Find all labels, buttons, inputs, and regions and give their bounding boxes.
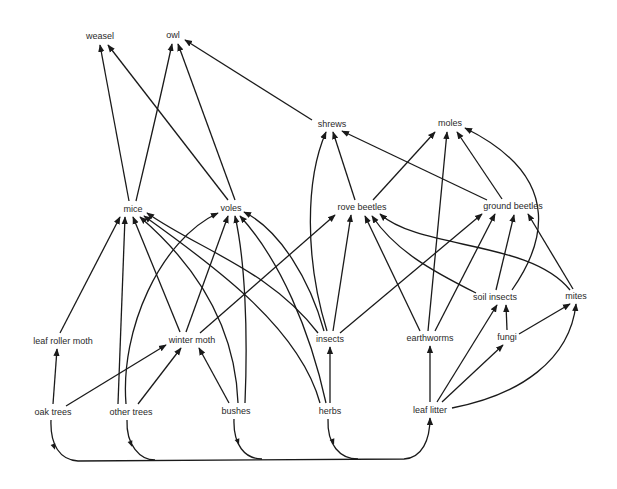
- edge-bushes-to-mice: [140, 217, 238, 403]
- edge-oak-trees-to-leaf-litter: [51, 418, 430, 461]
- edge-rove-beetles-to-shrews: [333, 132, 355, 200]
- node-leaf-roller-moth: leaf roller moth: [33, 337, 93, 346]
- node-bushes: bushes: [221, 407, 250, 416]
- edge-ground-beetles-to-shrews: [342, 131, 487, 200]
- edge-fungi-to-soil-insects: [506, 305, 507, 330]
- edge-mites-to-ground-beetles: [528, 214, 573, 289]
- edge-earthworms-to-ground-beetles: [435, 214, 495, 331]
- edge-insects-to-shrews: [310, 132, 327, 331]
- node-insects: insects: [316, 335, 344, 344]
- node-winter-moth: winter moth: [169, 336, 216, 345]
- edge-insects-to-ground-beetles: [340, 214, 482, 333]
- edge-shrews-to-owl: [185, 40, 312, 120]
- node-soil-insects: soil insects: [473, 293, 517, 302]
- edge-other-trees-to-mice: [118, 217, 125, 404]
- node-leaf-litter: leaf litter: [413, 406, 447, 415]
- edge-voles-to-weasel: [108, 45, 228, 200]
- node-fungi: fungi: [497, 333, 517, 342]
- node-herbs: herbs: [319, 407, 342, 416]
- edge-oak-trees-to-leaf-roller-moth: [53, 349, 57, 404]
- edge-fungi-to-mites: [519, 304, 570, 334]
- edge-insects-to-rove-beetles: [333, 215, 351, 331]
- edge-other-trees-to-leaf-litter: [127, 420, 155, 460]
- edge-mice-to-weasel: [100, 45, 129, 201]
- node-owl: owl: [166, 31, 180, 40]
- node-weasel: weasel: [86, 32, 114, 41]
- edge-bushes-to-voles: [235, 216, 246, 403]
- node-moles: moles: [438, 119, 462, 128]
- node-ground-beetles: ground beetles: [483, 202, 543, 211]
- edge-oak-trees-to-winter-moth: [66, 345, 166, 406]
- edge-mice-to-owl: [136, 44, 172, 201]
- node-voles: voles: [220, 204, 241, 213]
- edge-rove-beetles-to-moles: [373, 132, 435, 200]
- node-other-trees: other trees: [109, 408, 152, 417]
- edge-other-trees-to-winter-moth: [138, 348, 181, 404]
- edge-insects-to-voles: [244, 212, 324, 331]
- edge-leaf-roller-moth-to-mice: [60, 217, 120, 333]
- edge-bushes-to-winter-moth: [199, 348, 229, 403]
- food-web-diagram: weaselowlshrewsmolesmicevolesrove beetle…: [0, 0, 617, 489]
- edge-herbs-to-voles: [240, 216, 326, 403]
- node-oak-trees: oak trees: [34, 408, 71, 417]
- node-earthworms: earthworms: [406, 334, 453, 343]
- edge-herbs-to-leaf-litter: [328, 419, 358, 459]
- edge-leaf-litter-to-fungi: [442, 345, 503, 402]
- edge-leaf-litter-to-soil-insects: [437, 305, 497, 402]
- edge-voles-to-owl: [178, 44, 235, 200]
- edge-other-trees-to-voles: [125, 213, 218, 404]
- node-mice: mice: [123, 205, 142, 214]
- node-mites: mites: [565, 292, 587, 301]
- edge-leaf-litter-to-mites: [452, 304, 576, 408]
- edges-layer: [0, 0, 617, 489]
- node-rove-beetles: rove beetles: [337, 203, 386, 212]
- edge-earthworms-to-moles: [428, 132, 447, 331]
- node-shrews: shrews: [318, 120, 347, 129]
